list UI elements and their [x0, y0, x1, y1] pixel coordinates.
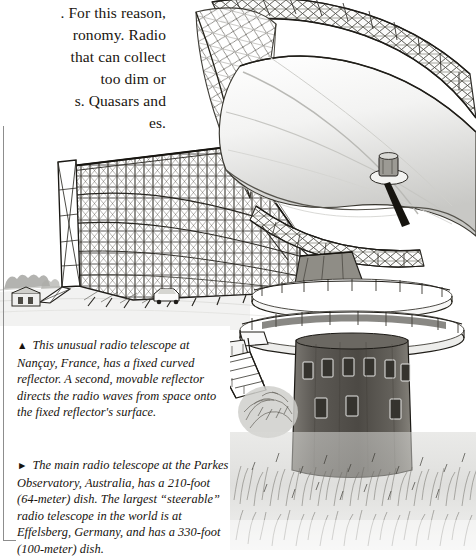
grass-blades — [234, 466, 476, 546]
body-line: s. Quasars and — [0, 90, 166, 112]
triangle-up-marker: ▲ — [17, 340, 32, 351]
caption-column-rule-foot — [3, 540, 16, 541]
parkes-dish-telescope — [196, 0, 476, 478]
upper-observation-deck — [252, 279, 452, 319]
dish-left-lattice — [196, 8, 276, 198]
dish-pedestal-yoke — [292, 252, 368, 300]
dish-back-truss — [212, 0, 476, 118]
body-text-column: . For this reason, ronomy. Radio that ca… — [0, 2, 166, 134]
body-line: too dim or — [0, 68, 166, 90]
body-line: . For this reason, — [0, 2, 166, 24]
dish-surface — [219, 56, 476, 236]
foreground-vegetation — [230, 386, 476, 553]
dish-support-frame — [250, 206, 424, 272]
body-line: es. — [0, 112, 166, 134]
triangle-right-marker: ► — [17, 460, 32, 471]
nancay-ground — [0, 275, 266, 331]
telescope-tower — [292, 333, 412, 478]
body-line: that can collect — [0, 46, 166, 68]
caption-column-rule — [3, 126, 4, 541]
grass-seed-heads — [252, 453, 465, 500]
caption-nancay-text: This unusual radio telescope at Nançay, … — [17, 338, 216, 419]
body-line: ronomy. Radio — [0, 24, 166, 46]
dish-feed-hub — [370, 153, 410, 227]
caption-nancay: ▲This unusual radio telescope at Nançay,… — [17, 337, 230, 421]
caption-parkes: ►The main radio telescope at the Parkes … — [17, 457, 230, 558]
site-vehicle — [154, 289, 179, 304]
tower-windows — [303, 358, 410, 419]
nancay-fixed-reflector — [12, 140, 315, 310]
caption-parkes-text: The main radio telescope at the Parkes O… — [17, 458, 228, 556]
nancay-support-legs — [84, 290, 296, 308]
shrub — [238, 386, 298, 438]
lower-observation-deck — [240, 311, 464, 357]
nancay-end-tower — [40, 160, 80, 303]
service-hut — [12, 287, 40, 306]
